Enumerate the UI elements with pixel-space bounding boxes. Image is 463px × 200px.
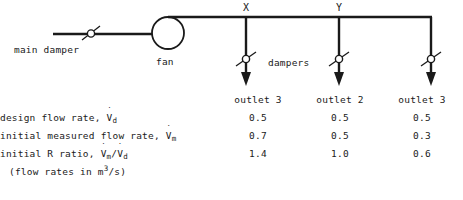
overdot: ˙ [101, 143, 107, 152]
cell-value: 0.5 [299, 126, 381, 144]
dampers-label: dampers [268, 57, 309, 68]
cell-value: 0.6 [381, 144, 463, 162]
row-label-design-flow-rate: design flow rate, ˙Vd [0, 108, 217, 126]
flow-arrowhead-3 [426, 72, 436, 86]
column-header-outlet-2: outlet 2 [299, 90, 381, 108]
symbol-subscript: m [107, 152, 112, 161]
symbol-subscript: d [112, 116, 117, 125]
column-header-outlet-3: outlet 3 [381, 90, 463, 108]
fan-icon [152, 17, 184, 49]
cell-value: 0.5 [299, 108, 381, 126]
row-label-measured-flow-rate: initial measured flow rate, ˙Vm [0, 126, 217, 144]
units-note: (flow rates in m3/s) [0, 162, 463, 177]
units-note-prefix: (flow rates in m [9, 166, 104, 177]
table-row: initial R ratio, ˙Vm/˙Vd 1.4 1.0 0.6 [0, 144, 463, 162]
cell-value: 1.0 [299, 144, 381, 162]
branch-outlet-1 [236, 17, 256, 86]
row-label-text: design flow rate, [0, 112, 107, 123]
overdot: ˙ [166, 125, 172, 134]
diagram-page: main damper fan dampers X Y outlet 3 out… [0, 0, 463, 200]
branch-outlet-3 [421, 17, 441, 86]
row-label-r-ratio: initial R ratio, ˙Vm/˙Vd [0, 144, 217, 162]
column-header-outlet-1: outlet 3 [217, 90, 299, 108]
flow-arrowhead-2 [334, 72, 344, 86]
overdot: ˙ [117, 143, 123, 152]
row-label-text: initial R ratio, [0, 148, 101, 159]
cell-value: 0.5 [217, 108, 299, 126]
flow-rate-table-area: outlet 3 outlet 2 outlet 3 design flow r… [0, 90, 463, 177]
table-row: design flow rate, ˙Vd 0.5 0.5 0.5 [0, 108, 463, 126]
symbol-subscript: d [123, 152, 128, 161]
table-row: initial measured flow rate, ˙Vm 0.7 0.5 … [0, 126, 463, 144]
units-note-suffix: /s) [108, 166, 126, 177]
symbol-subscript: m [172, 134, 177, 143]
cell-value: 0.7 [217, 126, 299, 144]
vdot-symbol-numerator: ˙V [101, 148, 107, 159]
table-header-row: outlet 3 outlet 2 outlet 3 [0, 90, 463, 108]
row-label-text: initial measured flow rate, [0, 130, 166, 141]
units-note-exponent: 3 [104, 164, 109, 173]
main-damper-label: main damper [14, 44, 79, 55]
node-y-label: Y [336, 2, 342, 13]
cell-value: 1.4 [217, 144, 299, 162]
vdot-symbol: ˙V [166, 130, 172, 141]
cell-value: 0.5 [381, 108, 463, 126]
node-x-label: X [243, 2, 249, 13]
overdot: ˙ [107, 107, 113, 116]
flow-rate-table: outlet 3 outlet 2 outlet 3 design flow r… [0, 90, 463, 162]
flow-arrowhead-1 [241, 72, 251, 86]
branch-outlet-2 [329, 17, 349, 86]
cell-value: 0.3 [381, 126, 463, 144]
fan-label: fan [156, 56, 174, 67]
